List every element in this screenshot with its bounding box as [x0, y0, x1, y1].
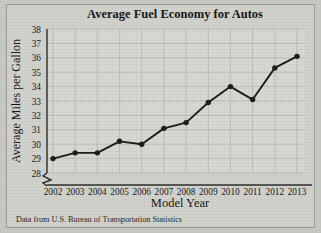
x-tick-label: 2002: [44, 187, 63, 197]
data-point: [272, 65, 277, 70]
chart-figure: Average Fuel Economy for Autos 282930313…: [0, 0, 321, 233]
x-tick-label: 2011: [244, 187, 263, 197]
y-tick-label: 35: [32, 68, 42, 78]
data-point: [228, 84, 233, 89]
source-note: Data from U.S. Bureau of Transportation …: [16, 215, 182, 224]
data-point: [161, 126, 166, 131]
x-axis-title: Model Year: [151, 196, 210, 210]
y-tick-label: 31: [32, 125, 42, 135]
axis-break-symbol: [43, 173, 51, 186]
y-tick-label: 37: [32, 39, 42, 49]
y-tick-label: 38: [32, 25, 42, 35]
y-axis-ticks: 2829303132333435363738: [32, 25, 42, 179]
data-point: [206, 100, 211, 105]
data-point: [95, 150, 100, 155]
y-tick-label: 32: [32, 111, 42, 121]
y-tick-label: 28: [32, 169, 42, 179]
x-tick-label: 2013: [288, 187, 307, 197]
y-tick-label: 30: [32, 140, 42, 150]
fuel-economy-line-chart: Average Fuel Economy for Autos 282930313…: [0, 0, 321, 233]
x-tick-label: 2012: [266, 187, 285, 197]
data-point: [139, 142, 144, 147]
chart-title: Average Fuel Economy for Autos: [87, 7, 263, 21]
y-tick-label: 36: [32, 53, 42, 63]
y-axis-title: Average Miles per Gallon: [9, 39, 23, 163]
x-tick-label: 2010: [221, 187, 240, 197]
data-point: [117, 139, 122, 144]
x-tick-label: 2006: [132, 187, 151, 197]
x-tick-label: 2004: [88, 187, 107, 197]
data-point: [183, 120, 188, 125]
data-point: [72, 150, 77, 155]
data-point: [50, 156, 55, 161]
y-tick-label: 29: [32, 154, 42, 164]
y-tick-label: 33: [32, 97, 42, 107]
x-tick-label: 2005: [110, 187, 129, 197]
data-point: [294, 54, 299, 59]
x-tick-label: 2003: [66, 187, 85, 197]
y-tick-label: 34: [32, 82, 42, 92]
data-point: [250, 97, 255, 102]
